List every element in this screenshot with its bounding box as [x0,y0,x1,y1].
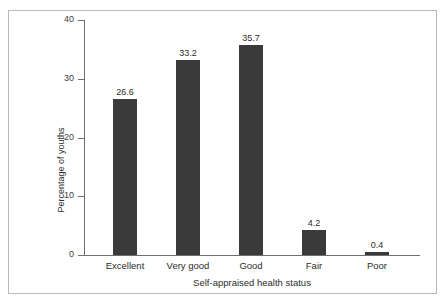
x-axis-tick-label: Poor [337,260,417,271]
bar-rect [113,99,137,255]
bar-fair: 4.2 [302,230,326,255]
bar-value-label: 33.2 [158,48,218,58]
y-axis-tick-label: 0 [34,250,74,259]
y-axis-tick-label: 30 [34,74,74,83]
bar-rect [302,230,326,255]
y-axis-tick-label-wrap: 0 [30,250,74,260]
bar-rect [365,252,389,255]
x-axis-line [84,255,420,256]
y-axis-tick [78,138,85,139]
bar-chart-figure: 010203040 26.633.235.74.20.4 ExcellentVe… [0,0,446,305]
y-axis-tick [78,196,85,197]
y-axis-tick [78,255,85,256]
bar-rect [239,45,263,255]
bar-rect [176,60,200,255]
bar-value-label: 4.2 [284,218,344,228]
y-axis-tick-label: 40 [34,15,74,24]
y-axis-tick [78,20,85,21]
y-axis-title-holder: Percentage of youths [62,90,74,220]
y-axis-tick-label-wrap: 40 [30,15,74,25]
y-axis-tick [78,79,85,80]
y-axis-title: Percentage of youths [56,90,66,250]
x-axis-title: Self-appraised health status [84,277,420,288]
bar-value-label: 26.6 [95,87,155,97]
bar-good: 35.7 [239,45,263,255]
bar-value-label: 35.7 [221,33,281,43]
bar-poor: 0.4 [365,252,389,255]
bar-excellent: 26.6 [113,99,137,255]
bar-very-good: 33.2 [176,60,200,255]
bar-value-label: 0.4 [347,240,407,250]
y-axis-tick-label-wrap: 30 [30,74,74,84]
